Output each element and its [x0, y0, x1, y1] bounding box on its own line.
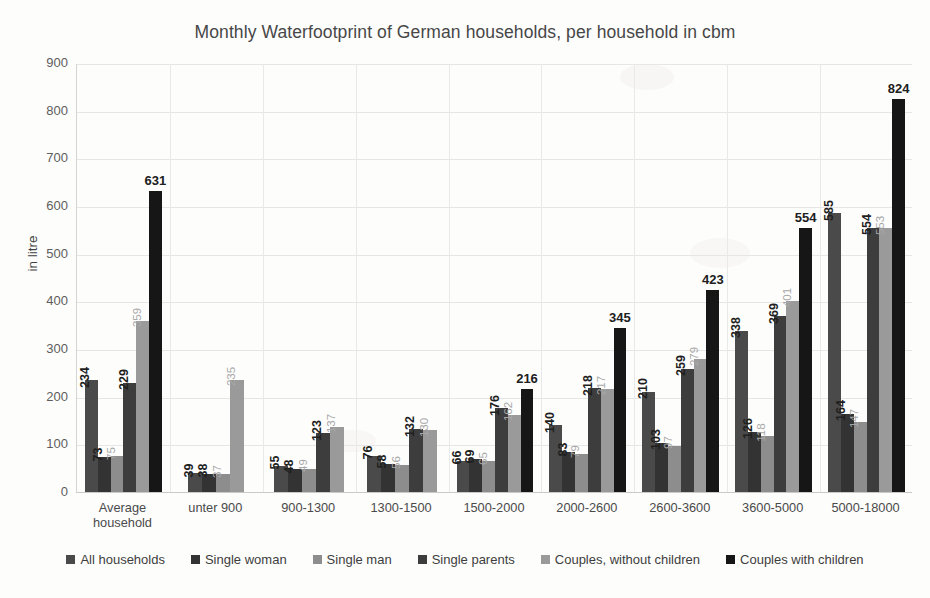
bar-column[interactable]: 103	[655, 64, 668, 492]
bar-column[interactable]: 58	[381, 64, 395, 492]
bar-column[interactable]: 140	[549, 64, 562, 492]
bar[interactable]: 137	[330, 427, 344, 492]
bar[interactable]: 73	[98, 457, 111, 492]
legend-item[interactable]: All households	[66, 552, 165, 567]
bar[interactable]: 369	[774, 316, 787, 492]
bar-value-label: 58	[376, 454, 389, 468]
bar[interactable]: 229	[123, 383, 136, 492]
bar-column[interactable]: 216	[521, 64, 534, 492]
bar-column[interactable]: 217	[601, 64, 614, 492]
bar[interactable]: 631	[149, 191, 162, 492]
bar-column[interactable]: 48	[288, 64, 302, 492]
bar[interactable]: 554	[867, 228, 880, 492]
bar-column[interactable]: 65	[482, 64, 495, 492]
legend-item[interactable]: Single parents	[418, 552, 515, 567]
legend-item[interactable]: Couples with children	[726, 552, 864, 567]
bar-column[interactable]: 73	[98, 64, 111, 492]
bar-value-label: 162	[503, 402, 515, 421]
bar[interactable]: 49	[302, 469, 316, 492]
bar[interactable]: 56	[395, 465, 409, 492]
bar-column[interactable]: 229	[123, 64, 136, 492]
bar-column[interactable]: 55	[274, 64, 288, 492]
bar[interactable]: 824	[892, 99, 905, 492]
bar[interactable]: 279	[694, 359, 707, 492]
bar[interactable]: 338	[735, 331, 748, 492]
bar-column[interactable]: 79	[575, 64, 588, 492]
bar[interactable]: 218	[588, 388, 601, 492]
bar[interactable]: 235	[230, 380, 244, 492]
bar[interactable]: 132	[409, 429, 423, 492]
bar-column[interactable]: 401	[786, 64, 799, 492]
bar[interactable]: 97	[668, 446, 681, 492]
bar-column[interactable]: 554	[799, 64, 812, 492]
bar-column[interactable]: 69	[469, 64, 482, 492]
bar[interactable]: 259	[681, 369, 694, 492]
bar[interactable]: 423	[706, 290, 719, 492]
x-axis-label: 1500-2000	[448, 500, 541, 515]
bar-column[interactable]: 631	[149, 64, 162, 492]
bar-column[interactable]: 235	[230, 64, 244, 492]
bar[interactable]: 65	[482, 461, 495, 492]
bar[interactable]: 359	[136, 321, 149, 492]
bar-column[interactable]: 130	[423, 64, 437, 492]
bar-value-label: 369	[768, 303, 781, 324]
bar-column[interactable]: 76	[367, 64, 381, 492]
x-axis-label: 5000-18000	[819, 500, 912, 515]
bar[interactable]: 585	[828, 213, 841, 492]
bar[interactable]: 130	[423, 430, 437, 492]
bar[interactable]: 118	[761, 436, 774, 492]
bar-value-label: 66	[450, 451, 463, 465]
bar[interactable]: 79	[575, 454, 588, 492]
y-axis-tick-label: 100	[8, 436, 68, 451]
bar-column[interactable]: 234	[85, 64, 98, 492]
bar-column[interactable]: 137	[330, 64, 344, 492]
bar[interactable]: 345	[614, 328, 627, 492]
bar[interactable]: 162	[508, 415, 521, 492]
bar[interactable]: 37	[216, 474, 230, 492]
bar[interactable]: 147	[854, 422, 867, 492]
bar-column[interactable]: 423	[706, 64, 719, 492]
bar-column[interactable]: 345	[614, 64, 627, 492]
legend-item[interactable]: Couples, without children	[541, 552, 700, 567]
bar-column[interactable]: 118	[761, 64, 774, 492]
bar-column[interactable]: 83	[562, 64, 575, 492]
bar-column[interactable]: 176	[495, 64, 508, 492]
bar-column[interactable]: 824	[892, 64, 905, 492]
legend-label: Single woman	[205, 552, 287, 567]
bar[interactable]: 123	[316, 433, 330, 492]
bar-column[interactable]: 97	[668, 64, 681, 492]
bar-column[interactable]: 147	[854, 64, 867, 492]
bar-value-label: 338	[729, 317, 742, 338]
bar-column[interactable]: 554	[867, 64, 880, 492]
bar-column[interactable]: 66	[457, 64, 470, 492]
bar[interactable]: 217	[601, 389, 614, 492]
bar-value-label: 176	[489, 395, 502, 416]
bar[interactable]: 553	[879, 228, 892, 492]
bar[interactable]: 48	[288, 469, 302, 492]
bar-column[interactable]: 75	[111, 64, 124, 492]
bar[interactable]: 66	[457, 461, 470, 492]
bar-value-label: 218	[582, 375, 595, 396]
bar-column[interactable]: 553	[879, 64, 892, 492]
bar[interactable]: 140	[549, 425, 562, 492]
bar[interactable]: 75	[111, 456, 124, 492]
bar-column[interactable]: 162	[508, 64, 521, 492]
bar-column[interactable]: 369	[774, 64, 787, 492]
bar-column[interactable]: 37	[216, 64, 230, 492]
bar[interactable]: 554	[799, 228, 812, 492]
bar-value-label: 69	[463, 449, 476, 463]
bar[interactable]: 83	[562, 452, 575, 492]
bar-column[interactable]: 39	[188, 64, 202, 492]
bar[interactable]: 103	[655, 443, 668, 492]
legend-item[interactable]: Single woman	[191, 552, 287, 567]
bar-column[interactable]: 359	[136, 64, 149, 492]
bar-column[interactable]: 210	[642, 64, 655, 492]
bar-column[interactable]: 259	[681, 64, 694, 492]
legend-item[interactable]: Single man	[313, 552, 392, 567]
bar[interactable]: 234	[85, 380, 98, 492]
bar-column[interactable]: 218	[588, 64, 601, 492]
bar-column[interactable]: 585	[828, 64, 841, 492]
bar[interactable]: 216	[521, 389, 534, 492]
bar[interactable]: 401	[786, 301, 799, 492]
bar-column[interactable]: 38	[202, 64, 216, 492]
